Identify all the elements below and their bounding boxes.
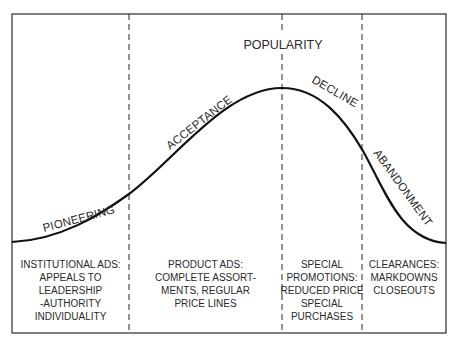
popularity-title: POPULARITY [243, 38, 323, 52]
strategy-cell-pioneering: INSTITUTIONAL ADS: APPEALS TO LEADERSHIP… [12, 258, 129, 324]
strategy-cell-abandonment: CLEARANCES: MARKDOWNS CLOSEOUTS [362, 258, 446, 324]
strategy-line: INDIVIDUALITY [35, 310, 107, 323]
strategy-cell-decline: SPECIAL PROMOTIONS: REDUCED PRICE SPECIA… [282, 258, 362, 324]
strategy-line: SPECIAL [301, 297, 343, 310]
strategy-line: PURCHASES [291, 310, 353, 323]
strategy-line: LEADERSHIP [39, 284, 102, 297]
strategy-line: -AUTHORITY [40, 297, 101, 310]
strategy-line: PRICE LINES [174, 297, 236, 310]
strategy-line: MENTS, REGULAR [161, 284, 250, 297]
stage-label-pioneering: PIONEERING [41, 203, 116, 234]
strategy-line: APPEALS TO [40, 271, 102, 284]
stage-label-acceptance: ACCEPTANCE [164, 93, 234, 152]
strategy-line: INSTITUTIONAL ADS: [20, 258, 120, 271]
strategy-line: PRODUCT ADS: [168, 258, 243, 271]
strategy-line: MARKDOWNS [370, 271, 437, 284]
strategy-line: CLEARANCES: [369, 258, 440, 271]
stage-label-decline: DECLINE [310, 73, 360, 109]
strategy-line: PROMOTIONS: [286, 271, 357, 284]
strategy-line: SPECIAL [301, 258, 343, 271]
strategy-cell-acceptance: PRODUCT ADS: COMPLETE ASSORT- MENTS, REG… [129, 258, 282, 324]
strategy-line: COMPLETE ASSORT- [155, 271, 256, 284]
strategy-line: CLOSEOUTS [373, 284, 435, 297]
strategy-line: REDUCED PRICE [281, 284, 364, 297]
